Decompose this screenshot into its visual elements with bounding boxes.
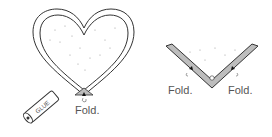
fold-label-left: Fold. — [168, 84, 192, 96]
fold-label-heart: Fold. — [75, 104, 99, 116]
heart-frame — [33, 9, 134, 102]
fold-label-right: Fold. — [228, 84, 252, 96]
diagram-canvas: GLUE — [0, 0, 272, 137]
glue-stick-icon: GLUE — [22, 90, 60, 124]
fold-corner-detail — [166, 44, 258, 88]
